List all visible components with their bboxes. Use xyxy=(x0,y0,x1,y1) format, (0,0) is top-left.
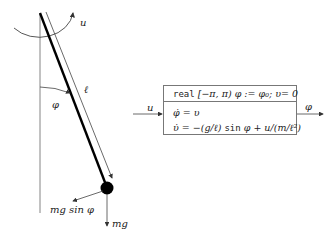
real-keyword: real xyxy=(173,89,195,99)
equation-phi: φ̇ = υ xyxy=(173,105,296,120)
input-label: u xyxy=(147,103,153,113)
model-block: real [−π, π) φ := φ₀; υ= 0 φ̇ = υ υ̇ = −… xyxy=(163,85,297,135)
gravity-label: mg xyxy=(112,219,128,229)
equations: φ̇ = υ υ̇ = −(g/ℓ) sin φ + u/(m/ℓ²) xyxy=(164,102,296,135)
output-label: φ xyxy=(305,102,312,112)
declaration-text: [−π, π) φ := φ₀; υ= 0 xyxy=(195,88,298,99)
v-dot-rhs-post: φ + u/(m/ℓ²) xyxy=(241,122,301,133)
phi-dot-rhs: = υ xyxy=(180,107,200,118)
phi-dot: φ̇ xyxy=(173,107,180,118)
pendulum-bob xyxy=(101,182,114,195)
declaration-row: real [−π, π) φ := φ₀; υ= 0 xyxy=(164,86,296,102)
equation-v: υ̇ = −(g/ℓ) sin φ + u/(m/ℓ²) xyxy=(173,120,296,135)
v-dot-rhs-pre: = −(g/ℓ) xyxy=(179,122,225,133)
torque-label: u xyxy=(80,18,86,28)
pendulum-rod xyxy=(40,13,106,185)
angle-label: φ xyxy=(52,100,59,110)
length-label: ℓ xyxy=(84,85,88,95)
tangential-force-arrow xyxy=(73,191,103,201)
length-arrow xyxy=(46,12,112,178)
sin-fn: sin xyxy=(224,123,240,133)
tangential-force-label: mg sin φ xyxy=(50,205,94,215)
angle-arc xyxy=(40,87,70,93)
